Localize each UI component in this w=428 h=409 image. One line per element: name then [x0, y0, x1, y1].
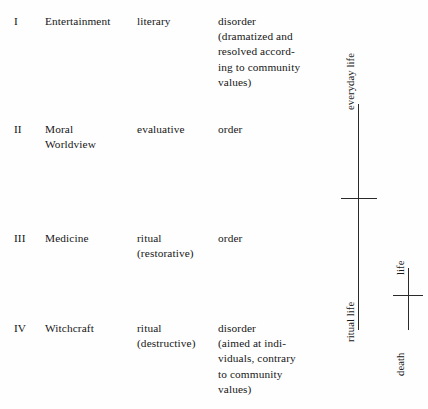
primary-axis-top-label: everyday life [345, 53, 356, 110]
primary-axis-bottom-label: ritual life [345, 302, 356, 342]
row-mode: evaluative [137, 122, 215, 137]
row-numeral: III [14, 231, 44, 246]
figure-canvas: I Entertainment literary disorder (drama… [0, 0, 428, 409]
secondary-axis-bottom-label: death [395, 353, 406, 376]
row-mode: literary [137, 14, 215, 29]
row-effect: order [218, 122, 330, 137]
secondary-axis-top-label: life [395, 260, 406, 275]
primary-axis-vertical-line [358, 104, 359, 330]
row-effect: order [218, 231, 330, 246]
primary-axis-crossbar [341, 198, 377, 199]
row-mode: ritual (destructive) [137, 321, 215, 351]
row-mode: ritual (restorative) [137, 231, 215, 261]
row-domain: Medicine [45, 231, 137, 246]
row-effect: disorder (aimed at indi- viduals, contra… [218, 321, 330, 397]
row-domain: Entertainment [45, 14, 137, 29]
row-domain: Witchcraft [45, 321, 137, 336]
secondary-axis-crossbar [393, 295, 423, 296]
row-effect: disorder (dramatized and resolved accord… [218, 14, 330, 90]
row-numeral: I [14, 14, 44, 29]
row-domain: Moral Worldview [45, 122, 137, 152]
row-numeral: IV [14, 321, 44, 336]
row-numeral: II [14, 122, 44, 137]
secondary-axis-vertical-line [408, 268, 409, 330]
